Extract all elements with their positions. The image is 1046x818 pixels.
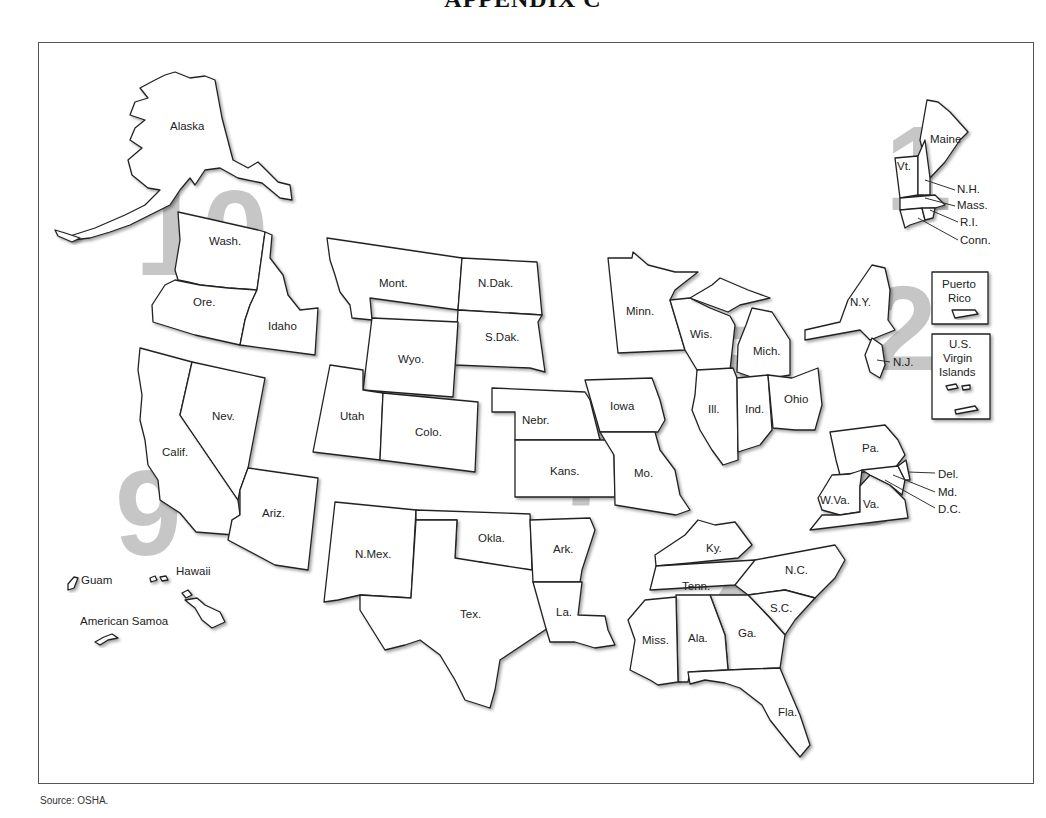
- label-ky: Ky.: [706, 542, 722, 554]
- label-hawaii: Hawaii: [176, 565, 211, 577]
- label-ri: R.I.: [960, 216, 978, 228]
- label-miss: Miss.: [642, 634, 669, 646]
- label-sc: S.C.: [770, 602, 792, 614]
- label-nebr: Nebr.: [522, 414, 550, 426]
- region-6: [324, 502, 615, 708]
- state-rhode-island[interactable]: [922, 208, 935, 220]
- region-10: [55, 72, 318, 355]
- label-wva: W.Va.: [820, 494, 850, 506]
- label-mont: Mont.: [379, 277, 408, 289]
- label-ariz: Ariz.: [262, 507, 285, 519]
- label-nev: Nev.: [212, 410, 235, 422]
- label-rico: Rico: [948, 292, 971, 304]
- label-nh: N.H.: [957, 183, 980, 195]
- label-ny: N.Y.: [850, 296, 871, 308]
- state-oregon[interactable]: [152, 280, 257, 345]
- label-pa: Pa.: [862, 442, 879, 454]
- label-del: Del.: [938, 468, 958, 480]
- label-md: Md.: [938, 486, 957, 498]
- region-9: [68, 348, 318, 645]
- label-american-samoa: American Samoa: [80, 615, 169, 627]
- osha-regions-map: 10 8 9 6 7 5 4 3 2 1: [0, 0, 1046, 818]
- label-dc: D.C.: [938, 503, 961, 515]
- label-islands: Islands: [939, 366, 976, 378]
- label-maine: Maine: [930, 133, 961, 145]
- label-sdak: S.Dak.: [485, 331, 520, 343]
- label-alaska: Alaska: [170, 120, 205, 132]
- label-utah: Utah: [340, 410, 364, 422]
- label-ind: Ind.: [745, 403, 764, 415]
- label-ore: Ore.: [193, 296, 215, 308]
- source-note: Source: OSHA.: [40, 795, 108, 806]
- label-va: Va.: [863, 498, 879, 510]
- label-okla: Okla.: [478, 532, 505, 544]
- label-ill: Ill.: [708, 403, 720, 415]
- label-kans: Kans.: [550, 465, 579, 477]
- label-nj: N.J.: [893, 356, 913, 368]
- state-guam[interactable]: [68, 577, 78, 590]
- label-vt: Vt.: [897, 160, 911, 172]
- label-mo: Mo.: [634, 467, 653, 479]
- label-puerto: Puerto: [942, 278, 976, 290]
- label-mich: Mich.: [753, 345, 780, 357]
- state-american-samoa[interactable]: [95, 634, 118, 645]
- label-ala: Ala.: [688, 632, 708, 644]
- state-louisiana[interactable]: [533, 582, 615, 648]
- label-ndak: N.Dak.: [478, 277, 513, 289]
- label-tex: Tex.: [460, 608, 481, 620]
- label-calif: Calif.: [162, 446, 188, 458]
- label-ga: Ga.: [738, 627, 757, 639]
- label-nmex: N.Mex.: [355, 548, 391, 560]
- label-wash: Wash.: [209, 235, 241, 247]
- label-guam: Guam: [81, 574, 112, 586]
- label-iowa: Iowa: [610, 400, 635, 412]
- state-illinois[interactable]: [692, 368, 738, 465]
- label-la: La.: [556, 606, 572, 618]
- label-wis: Wis.: [690, 328, 712, 340]
- label-minn: Minn.: [626, 305, 654, 317]
- label-idaho: Idaho: [268, 320, 297, 332]
- label-ark: Ark.: [553, 543, 573, 555]
- region-7: [492, 378, 690, 515]
- label-conn: Conn.: [960, 234, 991, 246]
- label-us: U.S.: [949, 338, 971, 350]
- state-west-virginia[interactable]: [818, 470, 862, 515]
- label-fla: Fla.: [778, 706, 797, 718]
- label-mass: Mass.: [957, 199, 988, 211]
- region-3: [810, 425, 910, 530]
- label-ohio: Ohio: [784, 393, 808, 405]
- label-colo: Colo.: [415, 426, 442, 438]
- label-wyo: Wyo.: [398, 353, 424, 365]
- label-nc: N.C.: [785, 564, 808, 576]
- label-tenn: Tenn.: [682, 580, 710, 592]
- label-virgin: Virgin: [943, 352, 972, 364]
